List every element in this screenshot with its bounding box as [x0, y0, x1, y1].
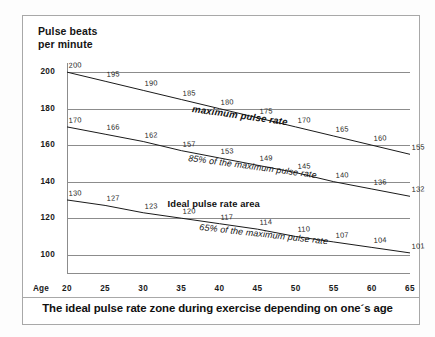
data-label-s2-60: 104: [373, 236, 387, 246]
y-tick-label-140: 140: [21, 177, 55, 186]
data-label-s0-30: 190: [145, 79, 159, 89]
plot-area: 200180160140120100 Age 20253035404550556…: [67, 63, 410, 273]
y-axis-title: Pulse beats per minute: [38, 25, 97, 51]
data-label-s0-55: 165: [335, 124, 349, 134]
x-tick-label-45: 45: [245, 284, 271, 293]
figure-caption: The ideal pulse rate zone during exercis…: [0, 302, 435, 314]
data-label-s2-45: 114: [259, 217, 272, 227]
data-label-s1-65: 132: [411, 184, 425, 194]
data-label-s0-40: 180: [221, 97, 235, 107]
x-tick-label-55: 55: [321, 284, 347, 293]
y-tick-label-200: 200: [21, 67, 55, 76]
data-label-s0-25: 195: [106, 69, 120, 79]
data-label-s1-40: 153: [221, 146, 235, 156]
data-label-s1-55: 140: [335, 170, 349, 180]
data-label-s0-65: 155: [411, 142, 425, 152]
data-label-s0-20: 200: [68, 60, 82, 70]
data-label-s2-55: 107: [335, 230, 349, 240]
data-label-s2-40: 117: [221, 212, 234, 222]
data-label-s0-35: 185: [183, 88, 197, 98]
chart-figure: Pulse beats per minute 20018016014012010…: [0, 0, 435, 337]
x-tick-label-60: 60: [359, 284, 385, 293]
data-label-s2-25: 127: [106, 194, 120, 204]
data-label-s1-25: 166: [106, 122, 120, 132]
x-tick-label-20: 20: [54, 284, 80, 293]
x-tick-label-65: 65: [397, 284, 423, 293]
y-tick-label-100: 100: [21, 250, 55, 259]
y-tick-label-120: 120: [21, 213, 55, 222]
data-label-s0-60: 160: [373, 133, 387, 143]
x-tick-label-50: 50: [283, 284, 309, 293]
annotation-ideal-pulse-rate-area: Ideal pulse rate area: [168, 198, 260, 209]
x-axis-label: Age: [33, 284, 49, 293]
data-label-s0-50: 170: [297, 115, 311, 125]
x-tick-label-30: 30: [130, 284, 156, 293]
x-tick-label-40: 40: [206, 284, 232, 293]
data-label-s1-35: 157: [183, 139, 197, 149]
caption-divider: [23, 297, 419, 298]
x-tick-label-35: 35: [168, 284, 194, 293]
data-label-s2-65: 101: [411, 241, 425, 251]
data-label-s2-20: 130: [68, 188, 82, 198]
x-tick-label-25: 25: [92, 284, 118, 293]
data-label-s1-30: 162: [145, 130, 159, 140]
y-tick-label-180: 180: [21, 104, 55, 113]
data-label-s2-30: 123: [145, 201, 159, 211]
data-label-s1-60: 136: [373, 177, 387, 187]
data-label-s1-20: 170: [68, 115, 82, 125]
y-tick-label-160: 160: [21, 140, 55, 149]
